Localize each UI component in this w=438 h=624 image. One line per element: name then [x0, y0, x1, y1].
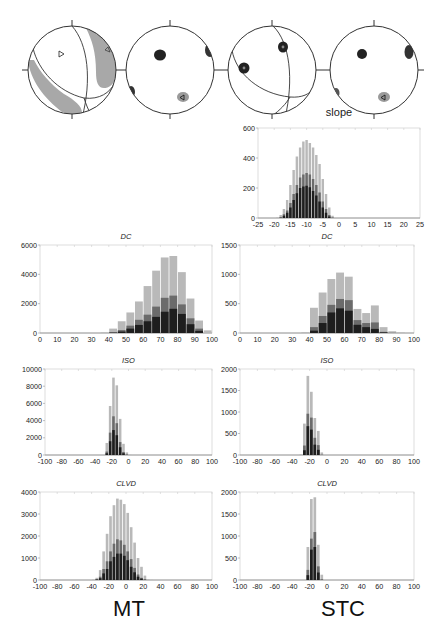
mt-iso-bar-dark [112, 430, 115, 455]
x-tick-label: 0 [124, 582, 128, 591]
stc-dc-bar-dark [319, 323, 327, 333]
mt-clvd-bar-total [147, 579, 150, 580]
x-tick-label: 50 [323, 335, 331, 344]
x-tick-label: 20 [139, 582, 147, 591]
x-tick-label: 0 [238, 335, 242, 344]
x-tick-label: 40 [306, 335, 314, 344]
p-axis-cluster [357, 49, 367, 59]
stc-clvd-bar-dark [313, 547, 316, 580]
mt-clvd-bar-dark [130, 567, 133, 580]
chart-title: CLVD [317, 479, 337, 488]
mt-clvd-bar-dark [102, 573, 105, 580]
x-tick-label: 0 [38, 335, 42, 344]
x-tick-label: 60 [174, 582, 182, 591]
slope-bar-dark [299, 188, 301, 218]
chart-title: slope [326, 106, 352, 118]
x-tick-label: 80 [393, 457, 401, 466]
chart-title: DC [121, 232, 132, 241]
stc-dc-bar-dark [362, 327, 370, 333]
x-tick-label: 0 [325, 582, 329, 591]
x-tick-label: 100 [408, 457, 420, 466]
mt-clvd-bar-dark [116, 554, 119, 580]
x-tick-label: 0 [325, 457, 329, 466]
figure-canvas: slope-25-20-15-10-505101520250200400600D… [0, 0, 438, 624]
mt-dc-bar-dark [144, 321, 152, 333]
x-tick-label: 60 [375, 582, 383, 591]
chart-title: DC [322, 232, 333, 241]
x-tick-label: 50 [122, 335, 130, 344]
x-tick-label: -20 [304, 457, 314, 466]
x-tick-label: -40 [90, 457, 100, 466]
y-tick-label: 1500 [221, 386, 237, 395]
y-tick-label: 4000 [21, 270, 37, 279]
x-tick-label: 40 [158, 457, 166, 466]
y-tick-label: 6000 [21, 241, 37, 250]
y-tick-label: 1500 [221, 510, 237, 519]
slope-bar-dark [286, 213, 288, 218]
x-tick-label: -60 [270, 457, 280, 466]
mt-clvd-bar-total [144, 576, 147, 580]
x-tick-label: 60 [340, 335, 348, 344]
y-tick-label: 1000 [221, 532, 237, 541]
slope-bar-dark [322, 208, 324, 219]
y-tick-label: 1000 [21, 554, 37, 563]
stc-clvd-bar-dark [307, 575, 310, 580]
x-tick-label: 100 [206, 582, 218, 591]
stc-dc-bar-dark [327, 312, 335, 333]
mt-iso-bar-dark [119, 447, 122, 455]
x-tick-label: 80 [174, 335, 182, 344]
column-label-mt: MT [113, 596, 145, 621]
x-tick-label: -10 [301, 220, 311, 229]
stc-focal-mechanism [228, 20, 316, 119]
x-tick-label: -20 [107, 457, 117, 466]
t-axis-cluster [127, 86, 135, 98]
stc-dc-bar-dark [354, 325, 362, 333]
mt-clvd-bar-dark [137, 577, 140, 580]
x-tick-label: 60 [375, 457, 383, 466]
x-tick-label: -60 [270, 582, 280, 591]
mt-iso-bar-dark [109, 441, 112, 455]
mt-dc-bar-total [204, 330, 212, 333]
focal-mechanism-row [22, 20, 424, 119]
p-axis-cluster [154, 50, 166, 61]
mt-clvd-bar-dark [133, 572, 136, 580]
x-tick-label: 100 [206, 335, 218, 344]
y-tick-label: 0 [233, 451, 237, 460]
slope-bar-dark [318, 202, 320, 219]
slope-bar-dark [302, 187, 304, 219]
y-tick-label: 2000 [21, 532, 37, 541]
mt-iso-histogram: ISO-100-80-60-40-20020406080100020004000… [22, 356, 218, 466]
mt-clvd-bar-dark [106, 569, 109, 580]
slope-bar-dark [309, 187, 311, 218]
y-tick-label: 1000 [221, 408, 237, 417]
mt-dc-bar-total [101, 332, 109, 333]
x-tick-label: 20 [400, 220, 408, 229]
stc-dc-bar-dark [380, 332, 388, 333]
mt-iso-bar-dark [116, 435, 119, 455]
mt-clvd-bar-dark [126, 560, 129, 580]
y-tick-label: 4000 [21, 488, 37, 497]
x-tick-label: 80 [191, 582, 199, 591]
x-tick-label: 30 [288, 335, 296, 344]
stc-dc-bar-total [397, 332, 405, 333]
stc-dc-bar-dark [345, 311, 353, 333]
x-tick-label: 20 [70, 335, 78, 344]
x-tick-label: -60 [69, 582, 79, 591]
stc-clvd-bar-dark [310, 550, 313, 580]
mt-dc-bar-dark [178, 314, 186, 333]
x-tick-label: -20 [304, 582, 314, 591]
stc-dc-histogram: DC0102030405060708090100050010001500 [221, 232, 420, 344]
plot-frame [40, 245, 212, 333]
x-tick-label: -80 [52, 582, 62, 591]
stc-iso-histogram: ISO-100-80-60-40-20020406080100050010001… [221, 356, 420, 466]
slope-histogram: slope-25-20-15-10-505101520250200400600 [243, 106, 424, 229]
x-tick-label: 0 [337, 220, 341, 229]
x-tick-label: -80 [57, 457, 67, 466]
x-tick-label: 25 [416, 220, 424, 229]
mt-clvd-bar-total [92, 579, 95, 580]
x-tick-label: 100 [408, 582, 420, 591]
mt-dc-bar-dark [152, 317, 160, 333]
x-tick-label: -20 [104, 582, 114, 591]
n-axis-cluster [378, 92, 390, 102]
y-tick-label: 500 [225, 299, 237, 308]
